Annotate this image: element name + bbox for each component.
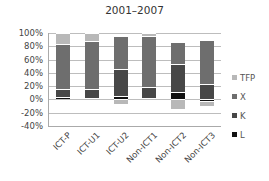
- gridline: [49, 86, 221, 87]
- segment-k: [114, 69, 128, 96]
- y-tick-label: 100%: [19, 28, 43, 38]
- legend-swatch: [232, 113, 237, 118]
- x-tick-label: ICT-P: [51, 130, 73, 152]
- segment-x: [142, 36, 156, 87]
- segment-tfp: [142, 33, 156, 36]
- bar-ict-u1: [85, 33, 99, 126]
- x-tick-label: ICT-U2: [104, 130, 131, 157]
- chart-title: 2001–2007: [0, 4, 269, 16]
- segment-l: [142, 98, 156, 99]
- legend-swatch: [232, 132, 237, 137]
- segment-tfp: [114, 99, 128, 104]
- legend-item-x: X: [232, 87, 255, 106]
- segment-tfp: [56, 33, 70, 44]
- gridline: [49, 113, 221, 114]
- legend-label: X: [240, 92, 246, 102]
- segment-l: [85, 98, 99, 99]
- segment-tfp: [171, 99, 185, 109]
- y-tick-label: 20%: [24, 81, 43, 91]
- x-tick-label: Non-ICT1: [125, 130, 160, 165]
- segment-x: [171, 42, 185, 65]
- legend-swatch: [232, 75, 237, 80]
- legend-label: L: [240, 130, 245, 140]
- segment-x: [56, 44, 70, 89]
- bar-ict-u2: [114, 33, 128, 126]
- legend-item-l: L: [232, 125, 255, 144]
- gridline: [49, 73, 221, 74]
- segment-k: [142, 87, 156, 98]
- gridline: [49, 99, 221, 100]
- bar-ict-p: [56, 33, 70, 126]
- segment-k: [56, 89, 70, 97]
- legend-item-k: K: [232, 106, 255, 125]
- legend-label: K: [240, 111, 246, 121]
- bar-non-ict2: [171, 33, 185, 126]
- y-tick-label: 0%: [30, 94, 44, 104]
- segment-k: [171, 64, 185, 92]
- bar-non-ict3: [200, 33, 214, 126]
- y-tick-label: 60%: [24, 55, 43, 65]
- segment-l: [56, 97, 70, 100]
- gridline: [49, 33, 221, 34]
- gridline: [49, 46, 221, 47]
- y-tick-label: 40%: [24, 68, 43, 78]
- segment-x: [114, 36, 128, 69]
- y-tick-label: 80%: [24, 41, 43, 51]
- legend-label: TFP: [240, 73, 255, 83]
- segment-x: [200, 40, 214, 85]
- bar-non-ict1: [142, 33, 156, 126]
- segment-l: [171, 92, 185, 99]
- segment-x: [85, 41, 99, 89]
- y-tick-label: -20%: [21, 108, 43, 118]
- legend: TFPXKL: [232, 68, 255, 144]
- legend-item-tfp: TFP: [232, 68, 255, 87]
- gridline: [49, 60, 221, 61]
- x-tick-label: Non-ICT2: [153, 130, 188, 165]
- segment-k: [85, 89, 99, 98]
- segment-tfp: [200, 101, 214, 106]
- segment-k: [200, 84, 214, 99]
- segment-tfp: [85, 33, 99, 41]
- legend-swatch: [232, 94, 237, 99]
- x-tick-label: ICT-U1: [76, 130, 103, 157]
- y-tick-label: -40%: [21, 121, 43, 131]
- plot-area: [48, 33, 221, 127]
